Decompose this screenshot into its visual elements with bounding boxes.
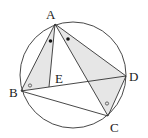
geometry-diagram: A B C D E xyxy=(0,0,148,138)
segment-bc xyxy=(21,91,108,116)
label-c: C xyxy=(110,120,119,135)
label-b: B xyxy=(9,85,18,100)
label-e: E xyxy=(55,71,63,86)
angle-mark-dot-cad xyxy=(66,37,70,41)
label-a: A xyxy=(46,7,56,22)
angle-mark-dot-bae xyxy=(49,39,53,43)
shaded-triangle-acd xyxy=(55,24,126,116)
label-d: D xyxy=(129,69,138,84)
